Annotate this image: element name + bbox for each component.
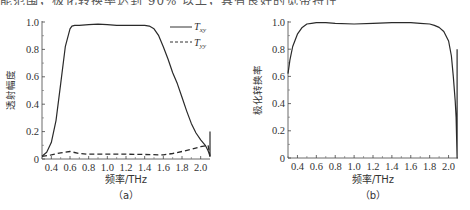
x-tick-label: 0.4 <box>45 162 59 173</box>
x-tick-label: 2.0 <box>194 162 207 173</box>
y-tick-label: 0.2 <box>26 126 39 137</box>
y-tick-label: 1.0 <box>26 17 39 28</box>
x-tick-label: 0.8 <box>82 162 95 173</box>
y-tick-label: 0.8 <box>272 44 285 55</box>
x-axis-title-b: 频率/THz <box>352 173 394 185</box>
x-tick-label: 2.0 <box>442 161 455 172</box>
y-tick-label: 1.0 <box>272 17 285 28</box>
y-tick-label: 0.8 <box>26 44 39 55</box>
legend-label-tyy: Tyy <box>194 37 207 50</box>
series-line-t-xy <box>42 24 210 156</box>
y-tick-label: 0.6 <box>26 71 39 82</box>
y-tick-label: 0 <box>34 154 39 165</box>
y-tick-label: 0 <box>280 153 285 164</box>
y-tick-label: 0.6 <box>272 71 285 82</box>
y-tick-label: 0.2 <box>272 125 285 136</box>
x-tick-label: 0.4 <box>291 161 305 172</box>
x-tick-label: 1.4 <box>385 161 399 172</box>
x-axis-title-a: 频率/THz <box>105 173 147 185</box>
x-tick-label: 0.6 <box>63 162 76 173</box>
axes-a: 00.20.40.60.81.00.40.60.81.01.21.41.61.8… <box>26 17 210 174</box>
axes-b: 00.20.40.60.81.00.40.60.81.01.21.41.61.8… <box>272 17 458 173</box>
figure: 00.20.40.60.81.00.40.60.81.01.21.41.61.8… <box>0 0 470 210</box>
x-tick-label: 1.8 <box>175 162 188 173</box>
chart-panel-b: 00.20.40.60.81.00.40.60.81.01.21.41.61.8… <box>252 17 458 202</box>
y-axis-title-b: 极化转换率 <box>252 65 263 115</box>
x-tick-label: 0.6 <box>310 161 323 172</box>
series-b <box>288 23 457 158</box>
series-a <box>42 24 210 156</box>
y-tick-label: 0.4 <box>26 99 40 110</box>
x-tick-label: 1.4 <box>138 162 152 173</box>
x-tick-label: 1.0 <box>101 162 114 173</box>
x-tick-label: 1.8 <box>423 161 436 172</box>
legend-a: Txy Tyy <box>170 21 207 50</box>
y-tick-label: 0.4 <box>272 98 286 109</box>
x-tick-label: 1.2 <box>119 162 132 173</box>
chart-panel-a: 00.20.40.60.81.00.40.60.81.01.21.41.61.8… <box>5 17 210 202</box>
x-tick-label: 1.6 <box>404 161 417 172</box>
x-tick-label: 0.8 <box>329 161 342 172</box>
panel-label-a: （a） <box>113 190 139 201</box>
y-axis-title-a: 透射幅度 <box>5 70 16 110</box>
x-tick-label: 1.0 <box>348 161 361 172</box>
series-line-pcr <box>288 23 457 158</box>
x-tick-label: 1.2 <box>366 161 379 172</box>
x-tick-label: 1.6 <box>157 162 170 173</box>
panel-label-b: （b） <box>360 190 386 201</box>
series-line-t-yy <box>42 145 210 156</box>
legend-label-txy: Txy <box>194 21 207 34</box>
